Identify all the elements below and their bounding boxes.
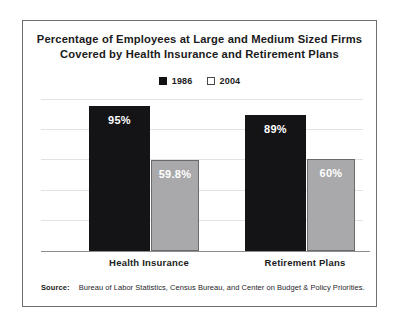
bar-2004-health-insurance: 59.8% [151,160,199,251]
axis-baseline [41,251,370,252]
chart-title-line-1: Percentage of Employees at Large and Med… [23,32,376,47]
bar-value-1986-health-insurance: 95% [90,114,149,126]
source-label: Source: [41,283,70,292]
bar-1986-retirement-plans: 89% [245,115,306,251]
gridline [41,99,363,100]
chart-panel: Percentage of Employees at Large and Med… [22,20,377,307]
legend-item-2004: 2004 [207,76,241,86]
chart-title-line-2: Covered by Health Insurance and Retireme… [23,47,376,62]
legend-item-1986: 1986 [159,76,193,86]
bar-2004-retirement-plans: 60% [307,159,355,251]
source-note: Source: Bureau of Labor Statistics, Cens… [41,283,366,292]
bar-value-2004-health-insurance: 59.8% [152,168,198,180]
chart-legend: 1986 2004 [23,76,376,86]
legend-swatch-hollow-icon [207,77,215,85]
bar-value-1986-retirement-plans: 89% [246,123,305,135]
legend-swatch-filled-icon [159,77,167,85]
bar-1986-health-insurance: 95% [89,106,150,251]
source-text: Bureau of Labor Statistics, Census Burea… [79,283,365,292]
chart-title: Percentage of Employees at Large and Med… [23,32,376,62]
category-label-health-insurance: Health Insurance [89,257,209,268]
category-label-retirement-plans: Retirement Plans [245,257,365,268]
legend-label-2004: 2004 [220,76,241,86]
legend-label-1986: 1986 [172,76,193,86]
plot-area: 95% 59.8% 89% 60% [41,99,363,251]
bar-value-2004-retirement-plans: 60% [308,167,354,179]
chart-figure: Percentage of Employees at Large and Med… [0,0,399,327]
